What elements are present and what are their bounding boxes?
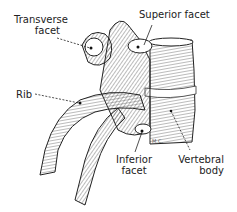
label-line: facet <box>112 165 156 176</box>
label-line: Inferior <box>112 154 156 165</box>
label-transverse-facet: Transverse facet <box>6 14 68 36</box>
label-vertebral-body: Vertebral body <box>172 154 224 176</box>
label-superior-facet: Superior facet <box>139 9 210 20</box>
label-rib: Rib <box>16 89 32 100</box>
superior-facet-shape <box>128 39 152 53</box>
label-line: Vertebral <box>172 154 224 165</box>
svg-text:M.C.: M.C. <box>152 138 163 144</box>
label-line: Transverse <box>6 14 68 25</box>
label-line: facet <box>6 25 68 36</box>
label-inferior-facet: Inferior facet <box>112 154 156 176</box>
vertebral-body-shape <box>145 38 196 144</box>
label-line: body <box>172 165 224 176</box>
